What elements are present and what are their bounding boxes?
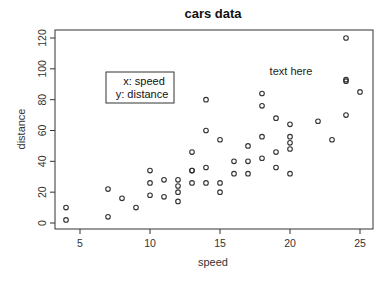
data-point	[204, 181, 209, 186]
data-point	[288, 171, 293, 176]
data-point	[64, 205, 69, 210]
data-point	[218, 181, 223, 186]
data-point	[176, 184, 181, 189]
y-tick-label: 100	[36, 60, 48, 78]
data-point	[106, 187, 111, 192]
data-points	[64, 36, 363, 223]
data-point	[288, 134, 293, 139]
data-point	[288, 141, 293, 146]
data-point	[176, 199, 181, 204]
data-point	[260, 156, 265, 161]
data-point	[176, 178, 181, 183]
data-point	[316, 119, 321, 124]
data-point	[120, 196, 125, 201]
data-point	[148, 168, 153, 173]
x-tick-label: 20	[284, 237, 296, 249]
scatter-chart: cars data 510152025 020406080100120 spee…	[0, 0, 392, 282]
data-point	[246, 144, 251, 149]
y-axis: 020406080100120	[36, 29, 55, 226]
y-tick-label: 120	[36, 29, 48, 47]
data-point	[190, 150, 195, 155]
y-axis-label: distance	[15, 109, 27, 150]
data-point	[330, 137, 335, 142]
data-point	[344, 113, 349, 118]
data-point	[64, 218, 69, 223]
x-axis: 510152025	[77, 229, 366, 249]
data-point	[134, 205, 139, 210]
data-point	[204, 97, 209, 102]
data-point	[274, 116, 279, 121]
data-point	[204, 165, 209, 170]
data-point	[190, 181, 195, 186]
y-tick-label: 40	[36, 155, 48, 167]
x-axis-label: speed	[198, 256, 228, 268]
data-point	[176, 190, 181, 195]
chart-title: cars data	[184, 6, 242, 21]
data-point	[162, 194, 167, 199]
data-point	[218, 137, 223, 142]
data-point	[246, 171, 251, 176]
data-point	[260, 134, 265, 139]
y-tick-label: 0	[36, 220, 48, 226]
data-point	[288, 122, 293, 127]
y-tick-label: 80	[36, 94, 48, 106]
data-point	[274, 165, 279, 170]
data-point	[148, 181, 153, 186]
x-tick-label: 15	[214, 237, 226, 249]
annotation-text: text here	[270, 65, 313, 77]
data-point	[344, 36, 349, 41]
data-point	[260, 104, 265, 109]
data-point	[274, 150, 279, 155]
y-tick-label: 20	[36, 186, 48, 198]
legend: x: speed y: distance	[106, 72, 174, 103]
x-tick-label: 10	[144, 237, 156, 249]
data-point	[260, 91, 265, 96]
data-point	[232, 171, 237, 176]
y-tick-label: 60	[36, 125, 48, 137]
data-point	[358, 90, 363, 95]
data-point	[148, 193, 153, 198]
data-point	[288, 147, 293, 152]
data-point	[218, 190, 223, 195]
data-point	[162, 178, 167, 183]
data-point	[106, 215, 111, 220]
data-point	[190, 168, 195, 173]
data-point	[246, 159, 251, 164]
legend-line-y: y: distance	[116, 88, 169, 100]
x-tick-label: 25	[354, 237, 366, 249]
plot-frame	[55, 30, 373, 229]
x-tick-label: 5	[77, 237, 83, 249]
data-point	[204, 128, 209, 133]
data-point	[232, 159, 237, 164]
legend-line-x: x: speed	[123, 75, 165, 87]
